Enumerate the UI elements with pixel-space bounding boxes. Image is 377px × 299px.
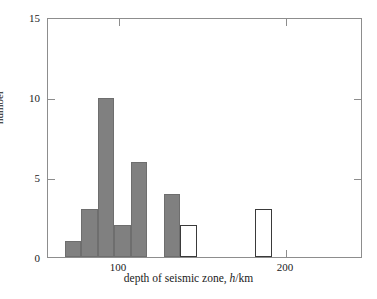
y-tick-label-15: 15 [14, 13, 40, 24]
bin-195-205-open [255, 209, 272, 257]
bin-100-110 [98, 98, 115, 257]
bin-90-100 [81, 209, 98, 257]
y-axis-title: number [0, 90, 5, 124]
bin-80-90 [65, 241, 82, 257]
bin-150-160-open [180, 225, 197, 257]
y-tick-label-10: 10 [14, 93, 40, 104]
x-axis-title-after: /km [235, 272, 253, 284]
y-tick-label-0: 0 [14, 253, 40, 264]
bin-120-130 [131, 162, 148, 257]
plot-frame [47, 18, 362, 258]
y-tick-label-5: 5 [14, 173, 40, 184]
plot-area [48, 19, 361, 257]
histogram-figure: number 0 5 10 15 100 200 depth of seismi… [0, 0, 377, 299]
x-axis-title-before: depth of seismic zone, [124, 272, 230, 284]
bin-110-120 [114, 225, 131, 257]
bin-140-150 [164, 194, 181, 257]
bars-layer [48, 19, 361, 257]
x-axis-title: depth of seismic zone, h/km [0, 272, 377, 284]
